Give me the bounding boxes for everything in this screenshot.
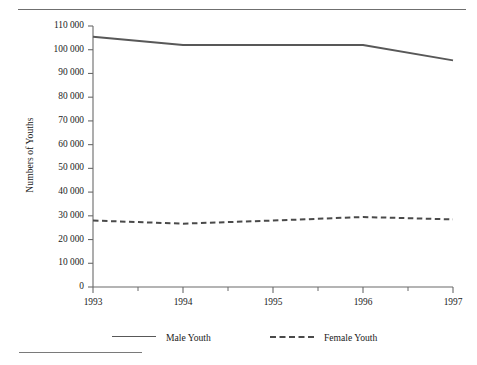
x-axis-tick-label: 1993 bbox=[63, 297, 123, 307]
y-axis-tick-label: 0 bbox=[0, 281, 84, 291]
legend-swatch-solid-line bbox=[112, 331, 156, 343]
legend-label-male-youth: Male Youth bbox=[166, 332, 211, 343]
data-series-layer bbox=[93, 37, 453, 224]
legend-entry-female-youth: Female Youth bbox=[270, 329, 377, 345]
x-axis-tick-label: 1994 bbox=[153, 297, 213, 307]
chart-axes bbox=[93, 26, 453, 287]
line-chart-plot bbox=[0, 0, 477, 365]
legend-swatch-dashed-line bbox=[270, 331, 314, 343]
chart-legend: Male Youth Female Youth bbox=[0, 329, 477, 349]
legend-label-female-youth: Female Youth bbox=[324, 332, 377, 343]
x-axis-tick-label: 1997 bbox=[423, 297, 477, 307]
x-axis-tick-label: 1996 bbox=[333, 297, 393, 307]
y-axis-tick-label: 80 000 bbox=[0, 91, 84, 101]
series-line-female-youth bbox=[93, 217, 453, 224]
x-axis-ticks bbox=[93, 287, 453, 293]
y-axis-tick-label: 70 000 bbox=[0, 115, 84, 125]
y-axis-tick-label: 10 000 bbox=[0, 257, 84, 267]
y-axis-tick-label: 110 000 bbox=[0, 20, 84, 30]
series-line-male-youth bbox=[93, 37, 453, 61]
y-axis-tick-label: 90 000 bbox=[0, 67, 84, 77]
x-axis-tick-label: 1995 bbox=[243, 297, 303, 307]
y-axis-tick-label: 60 000 bbox=[0, 139, 84, 149]
footnote-rule bbox=[19, 352, 142, 353]
figure: Numbers of Youths 010 00020 00030 00040 … bbox=[0, 0, 477, 365]
y-axis-tick-label: 50 000 bbox=[0, 162, 84, 172]
y-axis-tick-label: 20 000 bbox=[0, 234, 84, 244]
y-axis-title: Numbers of Youths bbox=[25, 95, 35, 215]
y-axis-tick-label: 100 000 bbox=[0, 44, 84, 54]
y-axis-tick-label: 30 000 bbox=[0, 210, 84, 220]
y-axis-ticks bbox=[88, 26, 93, 287]
legend-entry-male-youth: Male Youth bbox=[112, 329, 211, 345]
y-axis-tick-label: 40 000 bbox=[0, 186, 84, 196]
